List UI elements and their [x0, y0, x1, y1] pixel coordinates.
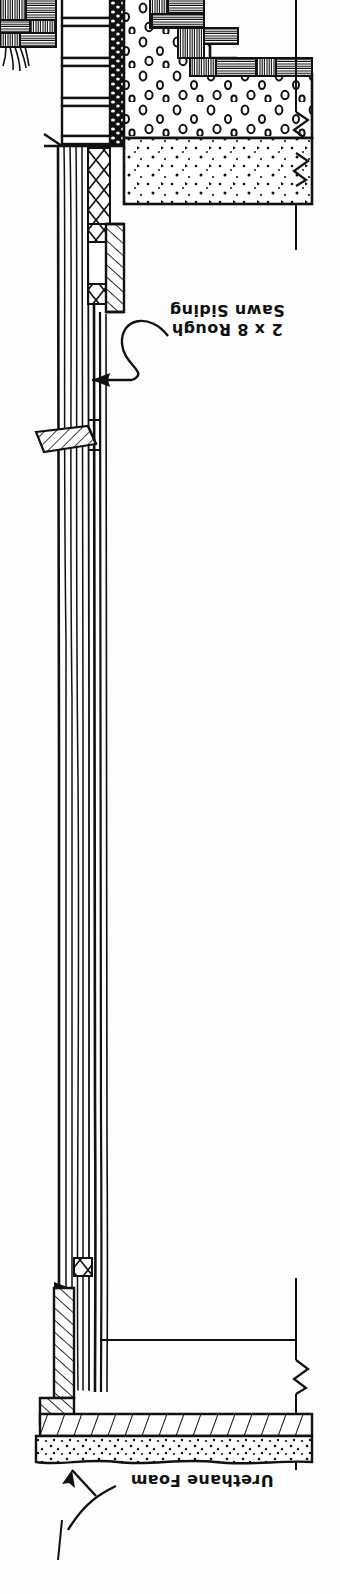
annotation-rough-sawn-siding: 2 x 8 Rough Sawn Siding: [152, 300, 302, 338]
nailer-block: [74, 1258, 92, 1276]
annotation-foam-line-1: Urethane Foam: [112, 1470, 292, 1489]
sealant-strip: [110, 0, 124, 146]
rigid-board-rim: [106, 224, 124, 312]
annotation-urethane-foam: Urethane Foam: [112, 1470, 292, 1489]
urethane-foam-layer: [36, 1436, 312, 1463]
perimeter-board-vertical: [54, 1288, 74, 1398]
wall-section-drawing: [0, 0, 340, 1594]
batt-insulation: [88, 148, 110, 224]
slab-insulation-band: [40, 1414, 312, 1436]
drawing-sheet: 2 x 8 Rough Sawn Siding Urethane Foam: [0, 0, 340, 1594]
decking-course-stack: [62, 0, 110, 144]
annotation-siding-line-1: 2 x 8 Rough: [152, 319, 302, 338]
annotation-siding-line-2: Sawn Siding: [152, 300, 302, 319]
